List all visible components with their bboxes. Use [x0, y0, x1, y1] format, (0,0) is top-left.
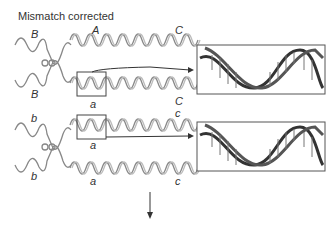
label-bottom-upper-right: c [175, 107, 181, 119]
label-top-upper-left: B [31, 28, 38, 40]
bottom-enlarged-helix [197, 122, 325, 171]
top-lower-helix [70, 77, 200, 89]
label-bottom-upper-left: b [31, 112, 37, 124]
label-top-lower-left: B [31, 88, 38, 100]
bottom-lower-helix [70, 162, 200, 174]
label-bottom-lower-mid: a [90, 175, 96, 187]
top-crossover [15, 38, 71, 87]
label-top-upper-mid: A [92, 24, 99, 36]
label-top-lower-right: C [175, 95, 183, 107]
dna-diagram [0, 0, 330, 226]
bottom-zoom-arrow [106, 136, 190, 137]
label-top-upper-right: C [175, 24, 183, 36]
label-bottom-upper-mid: a [90, 139, 96, 151]
bottom-crossover [15, 123, 71, 172]
top-zoom-arrow [92, 67, 190, 72]
top-enlarged-helix [197, 45, 325, 94]
label-bottom-lower-left: b [31, 170, 37, 182]
label-top-lower-mid: a [90, 98, 96, 110]
label-bottom-lower-right: c [175, 175, 181, 187]
bottom-upper-helix [70, 119, 200, 131]
